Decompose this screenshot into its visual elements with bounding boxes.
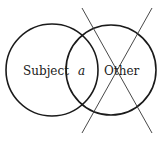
intersection-label: a xyxy=(78,64,85,78)
subject-label: Subject xyxy=(23,64,69,78)
other-label: Other xyxy=(104,64,139,78)
venn-diagram: Subject a Other xyxy=(0,0,163,141)
